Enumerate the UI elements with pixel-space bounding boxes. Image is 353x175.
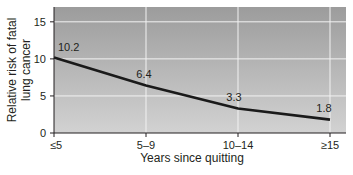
plot-area: 10.26.43.31.8 bbox=[54, 7, 346, 133]
data-label: 1.8 bbox=[316, 102, 331, 114]
x-tick-label: 5–9 bbox=[137, 139, 155, 151]
y-axis-label-line2: lung cancer bbox=[19, 39, 33, 101]
x-axis-label: Years since quitting bbox=[140, 151, 244, 165]
x-tick-label: ≤5 bbox=[50, 139, 62, 151]
y-tick-label: 10 bbox=[34, 53, 46, 65]
data-label: 10.2 bbox=[58, 41, 79, 53]
x-tick-label: 10–14 bbox=[223, 139, 254, 151]
y-tick-label: 5 bbox=[40, 90, 46, 102]
data-label: 3.3 bbox=[226, 91, 241, 103]
y-tick-label: 15 bbox=[34, 16, 46, 28]
y-axis-label-line1: Relative risk of fatal bbox=[5, 18, 19, 123]
data-label: 6.4 bbox=[136, 68, 151, 80]
y-tick-label: 0 bbox=[40, 127, 46, 139]
chart: 10.26.43.31.8 051015≤55–910–14≥15 Relati… bbox=[0, 0, 353, 175]
x-tick-label: ≥15 bbox=[321, 139, 339, 151]
